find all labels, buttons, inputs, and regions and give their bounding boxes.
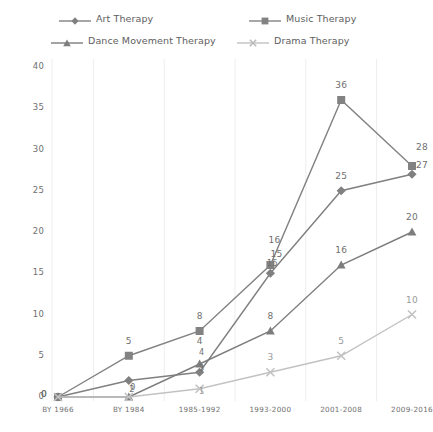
y-axis-tick-label: 35 — [18, 102, 44, 112]
gridlines — [52, 59, 377, 401]
data-point-label: 36 — [335, 80, 347, 90]
y-axis-tick-label: 10 — [18, 309, 44, 319]
x-axis-tick-label: 2001-2008 — [320, 405, 362, 414]
data-point-label: 20 — [406, 212, 418, 222]
y-axis-tick-label: 5 — [18, 350, 44, 360]
data-point-label: 16 — [335, 245, 347, 255]
data-point-label: 0 — [41, 389, 47, 399]
x-axis-tick-label: 1993-2000 — [249, 405, 291, 414]
y-axis-tick-label: 15 — [18, 267, 44, 277]
y-axis-tick-label: 20 — [18, 226, 44, 236]
square-marker-icon — [337, 96, 345, 104]
data-point-label: 4 — [197, 336, 203, 346]
square-marker-icon — [125, 352, 133, 360]
data-point-label: 28 — [416, 142, 428, 152]
triangle-marker-icon — [337, 260, 346, 268]
data-point-label: 3 — [267, 352, 273, 362]
data-point-label: 1 — [199, 387, 204, 396]
data-point-label: 27 — [416, 160, 428, 170]
y-axis-tick-label: 30 — [18, 144, 44, 154]
data-point-label: 4 — [199, 348, 204, 357]
x-axis-tick-label: BY 1966 — [42, 405, 74, 414]
x-axis-tick-label: 1985-1992 — [179, 405, 221, 414]
x-axis-tick-label: 2009-2016 — [391, 405, 433, 414]
data-point-label: 16 — [268, 235, 280, 245]
data-point-label: 8 — [267, 311, 273, 321]
square-marker-icon — [196, 327, 204, 335]
y-axis-tick-label: 40 — [18, 61, 44, 71]
data-point-label: 3 — [199, 364, 204, 373]
data-point-label: 15 — [267, 259, 278, 268]
data-point-label: 8 — [197, 311, 203, 321]
diamond-marker-icon — [407, 170, 416, 179]
x-marker-icon — [408, 311, 416, 319]
data-point-label: 10 — [406, 295, 418, 305]
data-point-label: 0 — [130, 383, 135, 392]
data-point-label: 15 — [270, 249, 282, 259]
data-point-label: 5 — [338, 336, 344, 346]
square-marker-icon — [408, 162, 416, 170]
data-point-label: 25 — [335, 171, 347, 181]
triangle-marker-icon — [408, 227, 417, 235]
y-axis-tick-label: 25 — [18, 185, 44, 195]
x-axis-tick-label: BY 1984 — [113, 405, 145, 414]
data-point-label: 5 — [126, 336, 132, 346]
